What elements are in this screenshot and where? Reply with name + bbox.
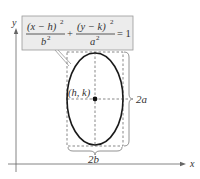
term1-numerator: (x − h): [27, 21, 57, 33]
term2-denominator-exponent: 2: [96, 34, 100, 42]
ellipse-diagram: x y (h, k) 2a 2b (x − h) 2 b 2 + (y − k: [0, 0, 200, 179]
center-point: [93, 97, 98, 102]
term2-numerator: (y − k): [77, 21, 106, 33]
term2-denominator: a: [90, 36, 95, 47]
horizontal-axis-label-2b: 2b: [88, 153, 100, 165]
center-label: (h, k): [68, 87, 91, 99]
term2-numerator-exponent: 2: [110, 18, 114, 26]
y-axis-arrow-icon: [14, 28, 18, 34]
x-axis-arrow-icon: [180, 162, 186, 166]
term1-denominator: b: [41, 36, 46, 47]
equals-one: = 1: [117, 28, 131, 39]
vertical-axis-label-2a: 2a: [136, 93, 148, 105]
x-axis-label: x: [189, 158, 195, 169]
equation-callout: (x − h) 2 b 2 + (y − k) 2 a 2 = 1: [22, 16, 133, 66]
y-axis-label: y: [11, 17, 17, 28]
term1-numerator-exponent: 2: [60, 18, 64, 26]
vertical-brace: [124, 52, 133, 146]
plus-sign: +: [67, 28, 73, 39]
term1-denominator-exponent: 2: [47, 34, 51, 42]
